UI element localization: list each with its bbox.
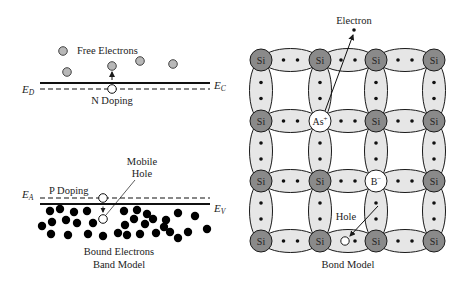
svg-text:Si: Si	[316, 236, 325, 247]
silicon-atom: Si	[309, 230, 331, 252]
bond-electron-dot	[259, 97, 263, 101]
bond-electron-dot	[318, 97, 322, 101]
n-doping-label: N Doping	[91, 95, 133, 106]
svg-text:Si: Si	[430, 55, 439, 66]
silicon-atom: Si	[309, 170, 331, 192]
bound-electron-icon	[48, 218, 56, 226]
bound-electron-icon	[130, 215, 138, 223]
bound-electron-icon	[62, 216, 70, 224]
ec-label: EC	[213, 79, 227, 93]
silicon-atom: Si	[250, 230, 272, 252]
silicon-atom: Si	[423, 230, 445, 252]
svg-text:Si: Si	[372, 236, 381, 247]
bond-electron-dot	[339, 179, 343, 183]
silicon-atom: Si	[365, 230, 387, 252]
svg-text:Si: Si	[316, 176, 325, 187]
donor-site-icon	[108, 85, 117, 94]
bond-electron-dot	[374, 217, 378, 221]
bond-electron-dot	[374, 81, 378, 85]
bond-electron-dot	[296, 119, 300, 123]
silicon-atom: Si	[250, 170, 272, 192]
free-electron-icon	[352, 28, 356, 32]
silicon-atom: Si	[423, 110, 445, 132]
bond-electron-dot	[282, 119, 286, 123]
svg-text:Si: Si	[430, 236, 439, 247]
bound-electron-icon	[174, 209, 182, 217]
bound-electron-icon	[149, 215, 157, 223]
bond-electron-dot	[318, 81, 322, 85]
hole-icon	[341, 237, 349, 245]
bound-electron-icon	[203, 225, 211, 233]
bond-electron-dot	[374, 201, 378, 205]
silicon-atom: Si	[309, 49, 331, 71]
silicon-atom: Si	[423, 49, 445, 71]
bond-electron-dot	[353, 119, 357, 123]
bond-electron-dot	[259, 157, 263, 161]
free-electron-icon	[63, 68, 72, 77]
silicon-atom: Si	[423, 170, 445, 192]
silicon-atom: Si	[365, 49, 387, 71]
bound-electron-icon	[141, 220, 149, 228]
bound-electron-icon	[184, 228, 192, 236]
electron-label: Electron	[336, 15, 372, 26]
bound-electron-icon	[47, 230, 55, 238]
bound-electron-icon	[136, 230, 144, 238]
bound-electron-icon	[64, 231, 72, 239]
svg-text:Si: Si	[257, 55, 266, 66]
bound-electron-icon	[84, 230, 92, 238]
bond-electron-dot	[259, 141, 263, 145]
dopant-atom: As+	[309, 110, 331, 132]
bond-electron-dot	[296, 239, 300, 243]
ed-label: ED	[21, 83, 35, 97]
svg-text:Si: Si	[372, 116, 381, 127]
silicon-atom: Si	[365, 110, 387, 132]
bond-electron-dot	[259, 217, 263, 221]
bond-electron-dot	[318, 217, 322, 221]
bond-electron-dot	[374, 157, 378, 161]
bond-electron-dot	[339, 119, 343, 123]
bond-electron-dot	[410, 239, 414, 243]
bound-electrons-label: Bound Electrons	[84, 246, 154, 257]
bound-electron-icon	[56, 205, 64, 213]
free-electron-icon	[169, 60, 178, 69]
bond-model-title: Bond Model	[322, 259, 375, 270]
bond-electron-dot	[374, 97, 378, 101]
ev-label: EV	[213, 202, 227, 216]
acceptor-site-icon	[99, 194, 108, 203]
bond-electron-dot	[353, 58, 357, 62]
svg-text:Si: Si	[372, 55, 381, 66]
bond-electron-dot	[353, 179, 357, 183]
svg-text:Si: Si	[430, 176, 439, 187]
dopant-atom: B−	[365, 170, 387, 192]
bound-electron-icon	[38, 222, 46, 230]
bond-electron-dot	[259, 201, 263, 205]
bond-electron-dot	[396, 239, 400, 243]
bound-electrons-group	[38, 205, 211, 242]
n-doping-band: Free Electrons EC ED N Doping	[21, 45, 227, 106]
mobile-label: Mobile	[127, 156, 158, 167]
bound-electron-icon	[133, 206, 141, 214]
bond-electron-dot	[432, 81, 436, 85]
bond-electron-dot	[353, 239, 357, 243]
p-doping-band: Mobile Hole P Doping EA EV Bound Electro…	[21, 156, 227, 270]
svg-text:Si: Si	[257, 176, 266, 187]
bound-electron-icon	[191, 212, 199, 220]
bond-model: SiSiSiSiSiAs+SiSiSiSiB−SiSiSiSiSi Electr…	[250, 15, 446, 270]
bond-electron-dot	[432, 97, 436, 101]
bond-electron-dot	[296, 179, 300, 183]
bound-electron-icon	[120, 207, 128, 215]
bound-electron-icon	[73, 219, 81, 227]
bound-electron-icon	[123, 231, 131, 239]
bond-hole-label: Hole	[336, 211, 357, 222]
svg-text:Si: Si	[430, 116, 439, 127]
bond-electron-dot	[396, 58, 400, 62]
free-electron-icon	[136, 57, 145, 66]
hole-label: Hole	[132, 168, 153, 179]
bond-electron-dot	[259, 81, 263, 85]
silicon-atom: Si	[250, 110, 272, 132]
bound-electron-icon	[121, 221, 129, 229]
bond-electron-dot	[410, 179, 414, 183]
bound-electron-icon	[152, 229, 160, 237]
bond-electron-dot	[318, 141, 322, 145]
bound-electron-icon	[114, 229, 122, 237]
